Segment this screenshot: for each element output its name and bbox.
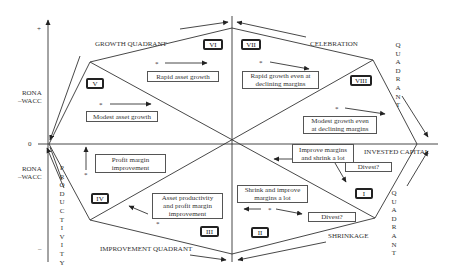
sector-i-badge: I [355,188,373,199]
origin-label: 0 [28,140,32,148]
x-axis-label: INVESTED CAPITAL [364,148,429,156]
y-axis-label-upper: RONA –WACC [18,89,42,105]
sector-iii-badge: III [200,226,219,237]
star-marker: * [259,60,263,66]
strategy-divest-lower: Divest? [308,212,356,222]
sector-viii-badge: VIII [350,75,372,86]
sector-v-badge: V [86,78,104,89]
y-axis-label-lower: RONA –WACC [18,165,42,181]
star-marker: * [99,102,103,108]
strategy-shrink-improve-margins: Shrink and improve margins a lot [237,185,308,203]
sector-ii-badge: II [251,227,269,238]
shrinkage-label: SHRINKAGE [328,232,368,240]
strategy-rapid-growth-declining-margins: Rapid growth even at declining margins [242,71,319,89]
strategy-modest-growth-declining-margins: Modest growth even at declining margins [303,116,377,134]
star-marker: * [84,172,88,178]
shrinkage-quadrant-vertical-label: Q U A D R A N T [390,189,398,258]
strategy-divest-upper: Divest? [345,162,392,172]
sector-vii-badge: VII [241,39,261,50]
strategy-improve-margins-shrink: Improve margins and shrink a lot [292,144,354,163]
improvement-quadrant-label: IMPROVEMENT QUADRANT [100,245,192,253]
sector-vi-badge: VI [203,39,223,50]
strategy-asset-productivity-margin-improvement: Asset productivity and profit margin imp… [152,193,223,219]
productivity-vertical-label: P R O D U C T I V I T Y [58,164,66,267]
star-marker: * [268,207,272,213]
growth-quadrant-label: GROWTH QUADRANT [95,40,167,48]
star-marker: * [156,221,160,227]
sector-iv-badge: IV [91,193,109,204]
value-creation-octagon-diagram: + RONA –WACC 0 RONA –WACC – INVESTED CAP… [0,0,457,274]
strategy-rapid-asset-growth: Rapid asset growth [147,71,219,82]
strategy-profit-margin-improvement: Profit margin improvement [95,154,166,173]
celebration-label: CELEBRATION [310,40,358,48]
y-axis-minus-sign: – [38,245,42,253]
diagram-lines [0,0,457,274]
strategy-modest-asset-growth: Modest asset growth [86,111,158,122]
y-axis-plus-sign: + [37,26,41,32]
star-marker: * [335,106,339,112]
star-marker: * [155,61,159,67]
celebration-quadrant-vertical-label: Q U A D R A N T [394,41,402,110]
